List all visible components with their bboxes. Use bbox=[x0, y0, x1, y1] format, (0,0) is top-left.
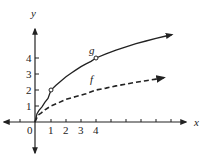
y-tick-label-2: 2 bbox=[26, 84, 32, 96]
y-tick-label-1: 1 bbox=[26, 100, 32, 112]
y-tick-label-4: 4 bbox=[26, 52, 32, 64]
y-axis-label: y bbox=[30, 7, 36, 19]
x-tick-label-4: 4 bbox=[93, 124, 99, 136]
y-tick-label-3: 3 bbox=[26, 68, 32, 80]
point-g-4-4 bbox=[94, 56, 98, 60]
x-tick-label-1: 1 bbox=[48, 124, 54, 136]
x-tick-label-3: 3 bbox=[78, 124, 84, 136]
x-tick-label-2: 2 bbox=[63, 124, 69, 136]
origin-label: 0 bbox=[27, 124, 33, 136]
curve-f bbox=[35, 78, 164, 122]
x-axis-label: x bbox=[193, 116, 199, 128]
point-g-1-2 bbox=[49, 88, 53, 92]
curve-g bbox=[35, 35, 172, 122]
curve-f-label: f bbox=[90, 73, 95, 85]
curve-g-label: g bbox=[89, 44, 95, 56]
function-graph: y x 0 1 2 3 4 1 2 3 4 g f bbox=[0, 0, 204, 159]
